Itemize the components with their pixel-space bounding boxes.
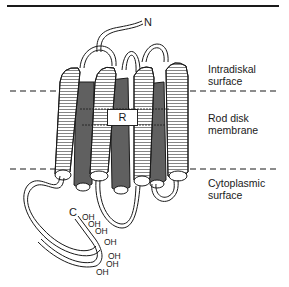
rhodopsin-diagram — [0, 0, 289, 287]
rod-disk-membrane-label: Rod disk membrane — [208, 112, 258, 136]
intradiskal-loops — [80, 44, 168, 72]
intradiskal-surface-label: Intradiskal surface — [208, 63, 256, 87]
hydroxyl-label: OH — [95, 227, 108, 236]
cytoplasmic-surface-label: Cytoplasmic surface — [208, 177, 265, 201]
n-terminus-label: N — [144, 16, 152, 28]
transmembrane-helices — [55, 63, 188, 194]
n-terminal-tail — [97, 21, 143, 52]
retinal-label: R — [107, 109, 138, 126]
hydroxyl-label: OH — [96, 268, 109, 277]
hydroxyl-label: OH — [104, 238, 117, 247]
c-terminus-label: C — [69, 206, 77, 218]
